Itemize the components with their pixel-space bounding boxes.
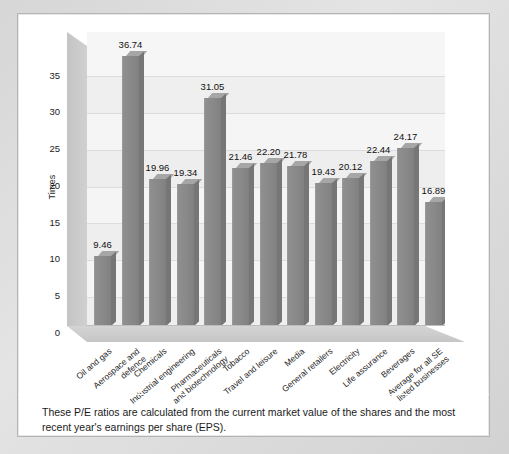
figure-caption: These P/E ratios are calculated from the…: [42, 405, 470, 435]
bar: [370, 161, 387, 326]
bar-side-face: [249, 163, 254, 326]
y-tick-label: 10: [38, 253, 60, 264]
bar-side-face: [139, 51, 144, 326]
bar-value-label: 21.78: [282, 149, 310, 160]
bar: [204, 98, 221, 326]
y-tick-label: 15: [38, 217, 60, 228]
y-tick-label: 30: [38, 106, 60, 117]
bar-side-face: [194, 179, 199, 326]
bar-front-face: [149, 179, 167, 326]
bar-value-label: 36.74: [117, 39, 145, 50]
bar-value-label: 24.17: [392, 131, 420, 142]
bar-value-label: 16.89: [420, 185, 448, 196]
bar-value-label: 22.44: [365, 144, 393, 155]
y-tick-label: 25: [38, 143, 60, 154]
bar-front-face: [315, 183, 333, 326]
bar: [315, 183, 332, 326]
bar-value-label: 19.34: [172, 167, 200, 178]
bar-value-label: 31.05: [199, 81, 227, 92]
page-root: Times 35 30 25 20 15 10 5 0: [0, 0, 509, 454]
bar: [232, 168, 249, 326]
bar-front-face: [260, 163, 278, 326]
y-tick-label: 20: [38, 180, 60, 191]
bar: [287, 166, 304, 326]
bar-side-face: [277, 158, 282, 326]
bar: [94, 256, 111, 326]
bar: [177, 184, 194, 326]
bar-side-face: [304, 161, 309, 326]
chart-floor-edge: [87, 325, 445, 326]
bar-front-face: [204, 98, 222, 326]
caption-divider: [18, 394, 489, 395]
bar-side-face: [221, 93, 226, 326]
bar-value-label: 22.20: [255, 146, 283, 157]
bar: [122, 56, 139, 326]
bar-front-face: [177, 184, 195, 326]
chart-left-wall: [67, 32, 87, 326]
bar: [260, 163, 277, 326]
bar-value-label: 21.46: [227, 151, 255, 162]
bar-front-face: [287, 166, 305, 326]
figure-panel: Times 35 30 25 20 15 10 5 0: [17, 13, 490, 437]
bar-side-face: [387, 156, 392, 326]
bar-side-face: [332, 178, 337, 326]
bar-front-face: [425, 202, 443, 326]
y-tick-label: 0: [38, 327, 60, 338]
bar-value-label: 20.12: [337, 161, 365, 172]
bar: [342, 178, 359, 326]
bar-value-label: 9.46: [89, 239, 117, 250]
chart-floor: [67, 326, 465, 342]
bar-front-face: [232, 168, 250, 326]
bar-front-face: [370, 161, 388, 326]
bar-side-face: [111, 251, 116, 326]
bar-side-face: [442, 197, 445, 326]
bar: [149, 179, 166, 326]
bar-chart: Times 35 30 25 20 15 10 5 0: [18, 14, 489, 389]
bar-side-face: [359, 173, 364, 326]
y-tick-label: 35: [38, 70, 60, 81]
bar-value-label: 19.96: [144, 162, 172, 173]
bar-side-face: [414, 143, 419, 326]
y-tick-label: 5: [38, 290, 60, 301]
bar-front-face: [94, 256, 112, 326]
bar-value-label: 19.43: [310, 166, 338, 177]
bar-front-face: [122, 56, 140, 326]
bar-front-face: [342, 178, 360, 326]
bar-side-face: [166, 174, 171, 326]
bar-front-face: [397, 148, 415, 326]
plot-area: [87, 32, 445, 326]
bar: [425, 202, 442, 326]
bar: [397, 148, 414, 326]
